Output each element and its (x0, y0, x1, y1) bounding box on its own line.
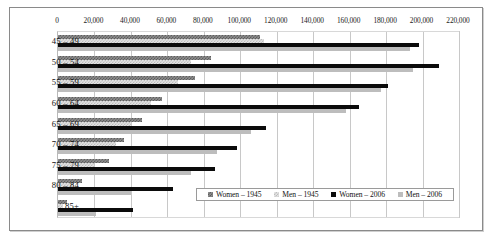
chart-legend: Women – 1945Men – 1945Women – 2006Men – … (196, 188, 455, 201)
legend-swatch-icon (274, 192, 279, 197)
y-axis-category-label: 55 – 59 (52, 77, 79, 87)
bar (58, 212, 96, 216)
y-axis-category-label: 85+ (65, 201, 79, 211)
legend-swatch-icon (331, 192, 336, 197)
y-axis-category-label: 50 – 54 (52, 57, 79, 67)
y-axis-category-label: 65 – 69 (52, 119, 79, 129)
x-tick-label: 40,000 (120, 16, 140, 25)
bar (58, 88, 381, 92)
x-tick-label: 60,000 (156, 16, 176, 25)
y-axis-category-label: 80 – 84 (52, 180, 79, 190)
legend-entry[interactable]: Women – 1945 (208, 190, 262, 199)
x-tick-label: 180,000 (373, 16, 396, 25)
legend-label: Women – 2006 (339, 190, 385, 199)
x-tick-label: 160,000 (337, 16, 360, 25)
x-tick-label: 80,000 (193, 16, 213, 25)
y-axis-category-label: 70 – 74 (52, 139, 79, 149)
bar (58, 191, 131, 195)
legend-swatch-icon (398, 192, 403, 197)
x-tick-label: 220,000 (446, 16, 469, 25)
x-tick-label: 0 (55, 16, 59, 25)
legend-label: Men – 2006 (406, 190, 442, 199)
legend-entry[interactable]: Men – 1945 (274, 190, 318, 199)
y-axis-category-label: 60 – 64 (52, 98, 79, 108)
gridline (459, 32, 460, 217)
x-axis-tick-labels: 020,00040,00060,00080,000100,000120,0001… (10, 16, 482, 30)
x-tick-label: 20,000 (84, 16, 104, 25)
bar (58, 171, 191, 175)
y-axis-category-label: 75 – 79 (52, 160, 79, 170)
x-tick-label: 140,000 (301, 16, 324, 25)
y-axis-category-label: 45 – 49 (52, 36, 79, 46)
x-tick-label: 100,000 (228, 16, 251, 25)
chart-figure: 020,00040,00060,00080,000100,000120,0001… (9, 7, 483, 231)
bar (58, 150, 217, 154)
legend-label: Women – 1945 (216, 190, 262, 199)
x-tick-label: 120,000 (264, 16, 287, 25)
bar (58, 109, 346, 113)
bar (58, 68, 413, 72)
legend-entry[interactable]: Women – 2006 (331, 190, 385, 199)
bar (58, 47, 410, 51)
legend-entry[interactable]: Men – 2006 (398, 190, 442, 199)
x-tick-label: 200,000 (410, 16, 433, 25)
legend-label: Men – 1945 (282, 190, 318, 199)
legend-swatch-icon (208, 192, 213, 197)
bar (58, 130, 251, 134)
chart-plot-area: 020,00040,00060,00080,000100,000120,0001… (10, 8, 482, 230)
